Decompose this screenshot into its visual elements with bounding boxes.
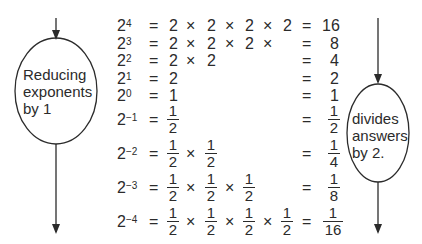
times-sign: × [263,214,272,230]
times-sign: × [186,214,195,230]
power-label: 23 [117,36,131,52]
power-label: 2−2 [117,146,137,162]
equals-sign: = [149,53,158,69]
fraction-factor: 12 [205,138,217,169]
result-fraction: 116 [323,206,343,237]
right-oval-line: answers [352,127,408,144]
fraction-factor: 12 [243,206,255,237]
times-sign: × [225,36,234,52]
factor: 2 [169,36,178,52]
fraction-factor: 12 [167,104,179,135]
factor: 2 [169,71,178,87]
fraction-factor: 12 [205,172,217,203]
factor: 2 [169,53,178,69]
power-label: 24 [117,18,131,34]
times-sign: × [263,36,272,52]
fraction-factor: 12 [205,206,217,237]
times-sign: × [225,214,234,230]
factor: 2 [283,18,292,34]
times-sign: × [186,36,195,52]
fraction-factor: 12 [167,172,179,203]
equals-sign: = [149,36,158,52]
fraction-factor: 12 [167,138,179,169]
equals-sign: = [302,71,311,87]
factor: 2 [245,36,254,52]
equals-sign: = [149,146,158,162]
power-label: 21 [117,71,131,87]
times-sign: × [186,53,195,69]
times-sign: × [225,18,234,34]
equals-sign: = [149,71,158,87]
right-top-arrowhead-icon [374,74,382,84]
result-fraction: 18 [328,172,340,203]
power-label: 20 [117,88,131,104]
result: 16 [322,18,340,34]
power-label: 2−4 [117,214,137,230]
left-oval-line: exponents [23,83,92,100]
fraction-factor: 12 [281,206,293,237]
equals-sign: = [302,36,311,52]
right-oval-label: divides answers by 2. [352,110,408,161]
times-sign: × [225,180,234,196]
left-oval-line: Reducing [23,66,92,83]
times-sign: × [263,18,272,34]
equals-sign: = [302,214,311,230]
right-oval-line: by 2. [352,144,408,161]
power-label: 2−3 [117,180,137,196]
right-bottom-arrowhead-icon [374,224,382,234]
left-oval-line: by 1 [23,100,92,117]
result-fraction: 14 [328,138,340,169]
equals-sign: = [149,180,158,196]
power-label: 22 [117,53,131,69]
left-bottom-arrowhead-icon [52,224,60,234]
factor: 2 [245,18,254,34]
left-oval-label: Reducing exponents by 1 [23,66,92,117]
equals-sign: = [149,18,158,34]
power-label: 2−1 [117,112,137,128]
result: 8 [330,36,339,52]
times-sign: × [186,146,195,162]
equals-sign: = [302,146,311,162]
fraction-factor: 12 [167,206,179,237]
equals-sign: = [302,180,311,196]
factor: 2 [169,18,178,34]
result: 4 [330,53,339,69]
times-sign: × [186,180,195,196]
right-oval-line: divides [352,110,408,127]
equals-sign: = [149,112,158,128]
times-sign: × [186,18,195,34]
factor: 2 [207,18,216,34]
equals-sign: = [149,88,158,104]
factor: 2 [207,53,216,69]
equals-sign: = [302,88,311,104]
equals-sign: = [149,214,158,230]
fraction-factor: 12 [243,172,255,203]
equals-sign: = [302,112,311,128]
result-fraction: 12 [328,104,340,135]
equals-sign: = [302,53,311,69]
factor: 2 [207,36,216,52]
result: 2 [330,71,339,87]
equals-sign: = [302,18,311,34]
